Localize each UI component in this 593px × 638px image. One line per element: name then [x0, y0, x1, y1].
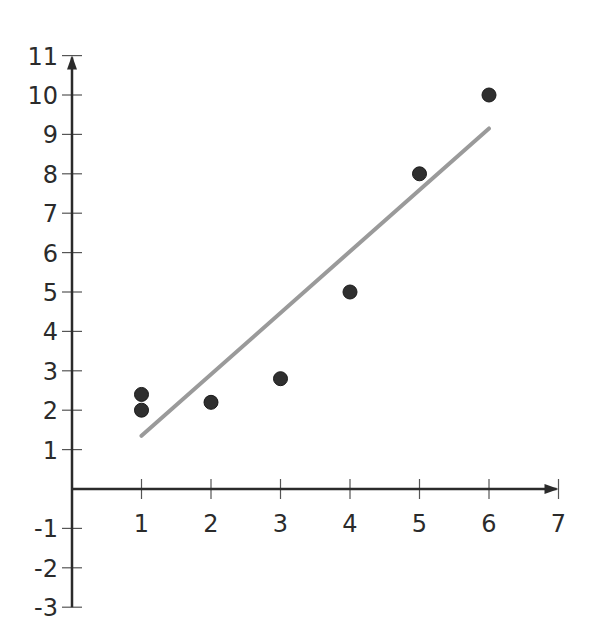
- y-tick-label: 8: [43, 161, 58, 189]
- y-tick-label: 6: [43, 240, 58, 268]
- data-point: [204, 395, 218, 409]
- fit-line-segment: [142, 128, 490, 435]
- data-point: [413, 167, 427, 181]
- y-tick-label: -2: [34, 555, 58, 583]
- y-tick-label: 10: [27, 82, 58, 110]
- x-tick-label: 2: [203, 510, 218, 538]
- y-tick-label: 3: [43, 358, 58, 386]
- data-points: [135, 88, 497, 417]
- data-point: [135, 403, 149, 417]
- y-axis-ticks: -3-2-11234567891011: [27, 43, 82, 623]
- line-of-best-fit: [142, 128, 490, 435]
- y-axis-arrow-icon: [67, 56, 77, 70]
- data-point: [274, 372, 288, 386]
- y-tick-label: -3: [34, 594, 58, 622]
- y-tick-label: 5: [43, 279, 58, 307]
- x-tick-label: 1: [134, 510, 149, 538]
- data-point: [343, 285, 357, 299]
- y-tick-label: 9: [43, 121, 58, 149]
- y-tick-label: 2: [43, 397, 58, 425]
- x-tick-label: 4: [342, 510, 357, 538]
- x-tick-label: 3: [273, 510, 288, 538]
- y-tick-label: -1: [34, 515, 58, 543]
- y-tick-label: 4: [43, 318, 58, 346]
- y-tick-label: 11: [27, 43, 58, 71]
- x-tick-label: 7: [551, 510, 566, 538]
- x-tick-label: 5: [412, 510, 427, 538]
- x-axis-arrow-icon: [545, 484, 559, 494]
- y-tick-label: 1: [43, 437, 58, 465]
- x-tick-label: 6: [481, 510, 496, 538]
- y-tick-label: 7: [43, 200, 58, 228]
- scatter-chart: -3-2-11234567891011 1234567: [0, 0, 593, 638]
- data-point: [135, 387, 149, 401]
- data-point: [482, 88, 496, 102]
